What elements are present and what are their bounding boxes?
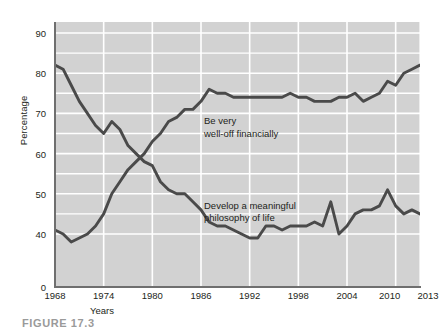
x-tick-label: 1974 bbox=[93, 290, 114, 301]
chart-svg bbox=[55, 22, 420, 287]
x-tick-label: 1980 bbox=[142, 290, 163, 301]
plot-area bbox=[55, 22, 420, 287]
y-tick-label: 60 bbox=[0, 148, 46, 159]
y-tick-label: 40 bbox=[0, 229, 46, 240]
series-annotation: Develop a meaningful philosophy of life bbox=[204, 200, 296, 225]
y-tick-label: 90 bbox=[0, 28, 46, 39]
x-tick-label: 2004 bbox=[336, 290, 357, 301]
y-tick-label: 80 bbox=[0, 68, 46, 79]
x-tick-label: 1992 bbox=[239, 290, 260, 301]
y-tick-label: 70 bbox=[0, 108, 46, 119]
x-axis-label: Years bbox=[90, 305, 114, 316]
figure-container: Percentage Years 0405060708090 196819741… bbox=[0, 0, 441, 330]
x-tick-label: 1998 bbox=[288, 290, 309, 301]
y-axis-line bbox=[54, 22, 56, 287]
x-tick-label: 2013 bbox=[417, 290, 438, 301]
x-axis-line bbox=[54, 286, 421, 288]
x-tick-label: 1986 bbox=[190, 290, 211, 301]
y-tick-label: 50 bbox=[0, 188, 46, 199]
y-tick-label: 0 bbox=[0, 282, 46, 293]
x-tick-label: 2010 bbox=[379, 290, 400, 301]
series-annotation: Be very well-off financially bbox=[204, 115, 278, 140]
gridlines bbox=[55, 22, 420, 287]
x-tick-label: 1968 bbox=[44, 290, 65, 301]
figure-caption: FIGURE 17.3 bbox=[22, 317, 95, 330]
